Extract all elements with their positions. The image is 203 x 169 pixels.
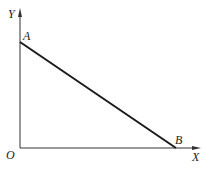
segment-ab [20, 42, 176, 148]
origin-label: O [6, 149, 15, 161]
y-axis-label: Y [8, 8, 15, 20]
y-axis-arrow-icon [18, 8, 22, 17]
diagram-canvas [0, 0, 203, 169]
point-b-label: B [175, 134, 182, 146]
x-axis-label: X [192, 151, 199, 163]
diagram: Y A B O X [0, 0, 203, 169]
point-a-label: A [23, 30, 30, 42]
